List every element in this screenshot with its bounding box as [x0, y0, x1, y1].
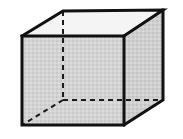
cube-diagram	[0, 0, 183, 139]
cube-figure	[0, 0, 183, 139]
cube-face-front	[22, 36, 124, 125]
